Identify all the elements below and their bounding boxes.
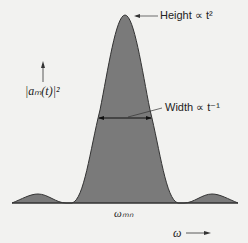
x-arrow-head bbox=[204, 231, 211, 235]
peak-height-label: Height ∝ t² bbox=[160, 9, 213, 22]
x-axis-label: ω bbox=[173, 226, 181, 241]
y-arrow-head bbox=[41, 61, 45, 68]
width-label: Width ∝ t⁻¹ bbox=[165, 101, 220, 114]
height-arrow-head bbox=[134, 14, 140, 18]
y-axis-label: |aₘ(t)|² bbox=[25, 84, 60, 99]
center-frequency-label: ωₘₙ bbox=[114, 207, 133, 220]
